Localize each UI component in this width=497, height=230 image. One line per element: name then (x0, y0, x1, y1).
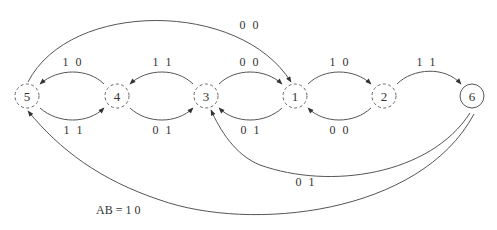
node-2: 2 (372, 84, 396, 108)
edge-3-to-1 (219, 72, 282, 84)
state-diagram: 5 4 3 1 2 6 1 0 1 1 0 0 1 0 1 1 0 0 1 1 … (0, 0, 497, 230)
node-4-label: 4 (114, 89, 121, 104)
edge-1-to-2 (308, 72, 371, 84)
edge-2-to-1 (308, 108, 371, 120)
edge-1-to-3 (219, 108, 282, 120)
edge-label-3-4: 1 1 (153, 55, 174, 69)
edge-2-to-6 (397, 71, 461, 84)
edge-label-4-3: 0 1 (153, 123, 174, 137)
node-5-label: 5 (24, 89, 31, 104)
edge-label-2-6: 1 1 (417, 55, 438, 69)
node-3-label: 3 (203, 89, 210, 104)
edge-label-5-4: 1 1 (64, 123, 85, 137)
node-5: 5 (15, 84, 39, 108)
node-6-label: 6 (469, 89, 476, 104)
input-ab-label: AB = 1 0 (96, 203, 140, 217)
edge-label-2-1: 0 0 (330, 123, 351, 137)
node-3: 3 (194, 84, 218, 108)
edge-4-to-5 (40, 72, 104, 84)
node-6: 6 (460, 84, 484, 108)
edge-3-to-4 (130, 72, 193, 84)
node-1: 1 (283, 84, 307, 108)
node-1-label: 1 (292, 89, 299, 104)
edge-label-4-5: 1 0 (63, 55, 84, 69)
edge-5-to-4 (40, 108, 104, 120)
edge-label-5-1: 0 0 (240, 18, 261, 32)
edge-label-1-2: 1 0 (330, 55, 351, 69)
edge-label-1-3: 0 1 (241, 123, 262, 137)
edge-label-3-1: 0 0 (240, 55, 261, 69)
edge-label-6-3: 0 1 (296, 175, 317, 189)
node-2-label: 2 (381, 89, 388, 104)
edge-4-to-3 (130, 108, 193, 120)
node-4: 4 (105, 84, 129, 108)
